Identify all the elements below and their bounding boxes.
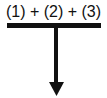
arrow-down-icon bbox=[49, 82, 64, 96]
tee-arrow-diagram bbox=[0, 0, 107, 98]
vertical-stem bbox=[54, 27, 58, 84]
